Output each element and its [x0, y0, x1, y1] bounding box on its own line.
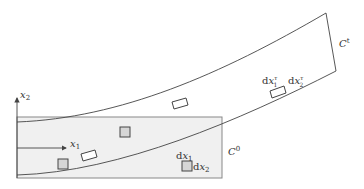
- reference-element-square: [58, 159, 68, 169]
- current-dx2-label: dxτ2: [288, 74, 304, 88]
- reference-configuration-label: C0: [228, 145, 240, 157]
- curve-break-mark: [233, 66, 236, 69]
- x2-axis-label: x2: [20, 89, 30, 102]
- current-configuration-upper-boundary: [17, 13, 326, 122]
- deformation-diagram: x2 x1 C0 Ct dx1 dx2 dxτ1 dxτ2: [0, 0, 364, 189]
- deformed-element-parallelogram: [172, 98, 188, 109]
- current-dx1-label: dxτ1: [262, 74, 278, 88]
- current-configuration-right-boundary: [326, 13, 336, 71]
- current-configuration-label: Ct: [339, 37, 350, 49]
- reference-element-square: [120, 127, 130, 137]
